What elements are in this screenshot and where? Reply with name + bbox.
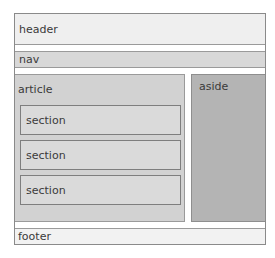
section-label: section: [26, 185, 66, 196]
nav-region: nav: [15, 51, 265, 68]
header-region: header: [15, 14, 265, 45]
section-region-3: section: [20, 175, 181, 205]
footer-label: footer: [18, 231, 51, 242]
article-label: article: [18, 84, 53, 95]
aside-region: aside: [191, 74, 265, 222]
section-label: section: [26, 115, 66, 126]
aside-label: aside: [199, 81, 228, 92]
footer-region: footer: [15, 228, 265, 244]
nav-label: nav: [19, 54, 39, 65]
section-label: section: [26, 150, 66, 161]
header-label: header: [19, 24, 58, 35]
section-region-2: section: [20, 140, 181, 170]
section-region-1: section: [20, 105, 181, 135]
